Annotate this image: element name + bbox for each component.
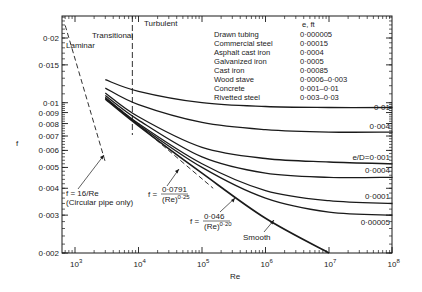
y-tick-label: 0·007 bbox=[39, 132, 60, 141]
annotation-laminar-formula: f = 16/Re bbox=[66, 189, 99, 198]
legend-roughness: 0·0006–0·003 bbox=[300, 75, 347, 84]
y-tick-label: 0·006 bbox=[39, 146, 60, 155]
region-turbulent: Turbulent bbox=[144, 19, 178, 28]
x-tick-label: 106 bbox=[261, 258, 274, 269]
x-tick-label: 108 bbox=[388, 258, 401, 269]
legend-material: Wood stave bbox=[214, 75, 254, 84]
friction-factor-chart: 0·0020·0030·0040·0050·0060·0070·0080·009… bbox=[0, 0, 422, 292]
legend-material: Galvanized iron bbox=[214, 57, 267, 66]
curve-label: 0·00005 bbox=[361, 218, 391, 227]
annotation-smooth-fit-numerator: 0·046 bbox=[204, 212, 225, 221]
curve-label: 0·0004 bbox=[365, 166, 390, 175]
x-tick-label: 104 bbox=[134, 258, 147, 269]
x-tick-label: 103 bbox=[70, 258, 83, 269]
y-tick-label: 0·015 bbox=[39, 61, 60, 70]
legend-roughness: 0·0004 bbox=[300, 48, 324, 57]
legend-roughness: 0·00085 bbox=[300, 66, 328, 75]
legend-roughness: 0·00015 bbox=[300, 39, 328, 48]
y-tick-label: 0·002 bbox=[39, 249, 60, 258]
legend-roughness: 0·003–0·03 bbox=[300, 93, 339, 102]
series-line bbox=[119, 109, 213, 189]
annotation-laminar-note: (Circular pipe only) bbox=[66, 198, 133, 207]
annotation-blasius-denominator: (Re)0·25 bbox=[162, 194, 190, 204]
legend-roughness: 0·000005 bbox=[300, 30, 332, 39]
curve-label: 0·004 bbox=[370, 122, 391, 131]
y-tick-label: 0·005 bbox=[39, 163, 60, 172]
y-tick-label: 0·003 bbox=[39, 211, 60, 220]
roughness-legend: e, ftDrawn tubing0·000005Commercial stee… bbox=[214, 20, 347, 102]
formula-annotations: f = 16/Re(Circular pipe only)f =0·0791(R… bbox=[66, 155, 274, 242]
legend-roughness: 0·001–0·01 bbox=[300, 84, 339, 93]
y-tick-label: 0·009 bbox=[39, 109, 60, 118]
y-tick-label: 0·008 bbox=[39, 120, 60, 129]
legend-material: Commercial steel bbox=[214, 39, 273, 48]
region-transitional: Transitional bbox=[92, 31, 133, 40]
x-tick-label: 107 bbox=[324, 258, 337, 269]
curve-label: e/D=0·001 bbox=[352, 153, 390, 162]
flow-regions: LaminarTransitionalTurbulent bbox=[66, 16, 178, 135]
y-tick-label: 0·02 bbox=[43, 34, 60, 43]
annotation-smooth-fit-denominator: (Re)0·20 bbox=[204, 221, 232, 231]
annotation-smooth: Smooth bbox=[243, 233, 271, 242]
x-tick-label: 105 bbox=[197, 258, 210, 269]
y-tick-label: 0·004 bbox=[39, 184, 60, 193]
curve-label: 0·0001 bbox=[365, 192, 390, 201]
y-axis-label: f bbox=[16, 139, 19, 148]
y-tick-label: 0·01 bbox=[43, 99, 60, 108]
curve-label: 0·01 bbox=[374, 103, 391, 112]
legend-header: e, ft bbox=[302, 20, 316, 29]
x-axis-label: Re bbox=[230, 272, 241, 281]
annotation-smooth-fit-prefix: f = bbox=[190, 217, 199, 226]
curve-labels: 0·010·004e/D=0·0010·00040·00010·00005 bbox=[352, 103, 390, 228]
annotation-blasius-numerator: 0·0791 bbox=[162, 185, 187, 194]
legend-material: Asphalt cast iron bbox=[214, 48, 270, 57]
legend-material: Concrete bbox=[214, 84, 245, 93]
annotation-blasius-prefix: f = bbox=[148, 190, 157, 199]
legend-material: Rivetted steel bbox=[214, 93, 260, 102]
legend-material: Cast iron bbox=[214, 66, 244, 75]
region-laminar: Laminar bbox=[66, 41, 95, 50]
legend-roughness: 0·0005 bbox=[300, 57, 324, 66]
legend-material: Drawn tubing bbox=[214, 30, 259, 39]
series-line bbox=[105, 97, 392, 203]
